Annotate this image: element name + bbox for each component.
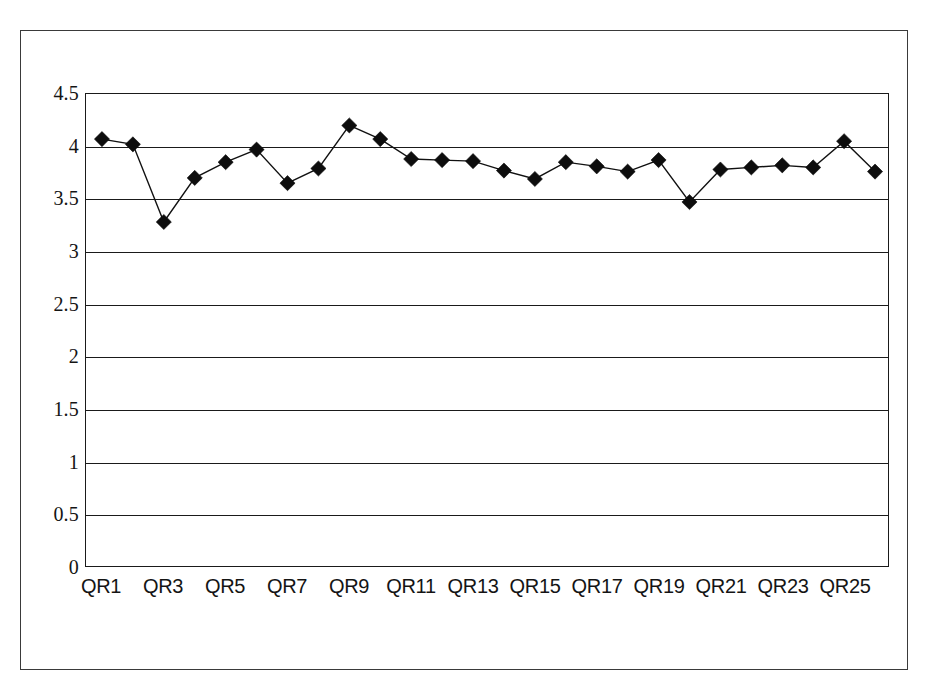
data-point-QR2: [125, 137, 140, 152]
data-point-QR19: [651, 153, 666, 168]
data-point-QR9: [342, 118, 357, 133]
y-axis-tick-labels: 00.511.522.533.544.5: [21, 93, 79, 567]
data-point-QR3: [156, 214, 171, 229]
y-tick-label-1.5: 1.5: [53, 399, 79, 419]
data-point-QR22: [744, 160, 759, 175]
x-tick-label-QR1: QR1: [81, 576, 121, 596]
x-tick-label-QR3: QR3: [143, 576, 183, 596]
plot-area: [85, 93, 889, 567]
x-tick-label-QR15: QR15: [509, 576, 560, 596]
data-point-QR5: [218, 155, 233, 170]
x-tick-label-QR21: QR21: [695, 576, 746, 596]
x-tick-label-QR5: QR5: [205, 576, 245, 596]
chart-outer-frame: 00.511.522.533.544.5 QR1QR3QR5QR7QR9QR11…: [20, 30, 908, 670]
y-tick-label-3: 3: [69, 241, 79, 261]
y-tick-label-1: 1: [69, 452, 79, 472]
x-tick-label-QR23: QR23: [757, 576, 808, 596]
data-point-QR10: [373, 132, 388, 147]
y-tick-label-2.5: 2.5: [53, 294, 79, 314]
data-point-QR8: [311, 161, 326, 176]
x-tick-label-QR11: QR11: [386, 576, 436, 596]
x-tick-label-QR9: QR9: [329, 576, 369, 596]
data-point-QR23: [775, 158, 790, 173]
series-line-qr-score: [102, 125, 875, 222]
y-tick-label-0: 0: [69, 557, 79, 577]
y-tick-label-3.5: 3.5: [53, 188, 79, 208]
data-point-QR17: [589, 159, 604, 174]
x-tick-label-QR7: QR7: [267, 576, 307, 596]
series-markers-qr-score: [94, 118, 882, 230]
x-tick-label-QR25: QR25: [819, 576, 870, 596]
x-tick-label-QR17: QR17: [571, 576, 622, 596]
data-point-QR14: [496, 163, 511, 178]
data-point-QR13: [465, 154, 480, 169]
x-tick-label-QR13: QR13: [447, 576, 498, 596]
data-point-QR4: [187, 170, 202, 185]
line-series-layer: [86, 94, 888, 566]
data-point-QR15: [527, 171, 542, 186]
data-point-QR11: [404, 151, 419, 166]
data-point-QR16: [558, 155, 573, 170]
x-axis-tick-labels: QR1QR3QR5QR7QR9QR11QR13QR15QR17QR19QR21Q…: [85, 576, 889, 616]
y-tick-label-0.5: 0.5: [53, 504, 79, 524]
x-tick-label-QR19: QR19: [633, 576, 684, 596]
data-point-QR18: [620, 164, 635, 179]
y-tick-label-2: 2: [69, 346, 79, 366]
data-point-QR1: [94, 132, 109, 147]
data-point-QR12: [435, 153, 450, 168]
y-tick-label-4.5: 4.5: [53, 83, 79, 103]
y-tick-label-4: 4: [69, 136, 79, 156]
